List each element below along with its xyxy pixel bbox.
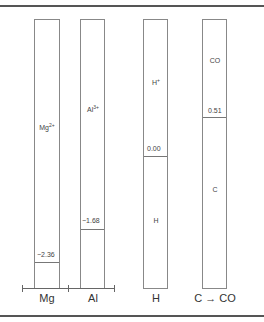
potential-line-mg xyxy=(35,262,59,263)
potential-h: 0.00 xyxy=(147,145,161,152)
species-charge: 3+ xyxy=(93,104,99,110)
column-mg xyxy=(34,19,60,289)
species-c: C xyxy=(204,186,226,193)
potential-line-c-co xyxy=(203,117,226,118)
species-h-ion: H+ xyxy=(145,79,167,86)
potential-c-co: 0.51 xyxy=(208,107,222,114)
column-al xyxy=(80,19,105,289)
species-charge: 2+ xyxy=(49,122,55,128)
potential-mg: −2.36 xyxy=(37,251,55,258)
potential-al: −1.68 xyxy=(82,217,100,224)
species-mg-ion: Mg2+ xyxy=(36,124,58,131)
axis-tick xyxy=(68,285,69,292)
column-h xyxy=(143,19,168,289)
top-border xyxy=(0,5,264,7)
bottom-border xyxy=(0,315,264,317)
label-c-co: C → CO xyxy=(190,292,240,304)
species-al-ion: Al3+ xyxy=(82,106,104,113)
potential-line-al xyxy=(81,229,104,230)
potential-line-h xyxy=(144,156,167,157)
species-charge: + xyxy=(157,77,160,83)
label-al: Al xyxy=(78,292,108,304)
species-co: CO xyxy=(204,57,226,64)
axis-tick xyxy=(22,285,23,292)
label-mg: Mg xyxy=(32,292,62,304)
species-h: H xyxy=(145,217,167,224)
species-name: Mg xyxy=(39,124,49,131)
axis-tick xyxy=(114,285,115,292)
label-h: H xyxy=(141,292,171,304)
